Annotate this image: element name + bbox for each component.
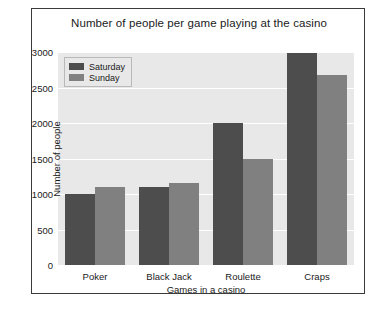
- bar: [65, 194, 95, 265]
- y-axis-tick-label: 500: [37, 224, 53, 235]
- x-axis-tick-label: Craps: [304, 271, 329, 282]
- x-axis-tick-label: Poker: [83, 271, 108, 282]
- y-axis-tick-label: 2500: [32, 82, 53, 93]
- y-axis-tick-label: 3000: [32, 47, 53, 58]
- legend-item: Sunday: [69, 72, 125, 83]
- bar: [213, 123, 243, 265]
- legend-swatch: [69, 74, 84, 81]
- x-axis-tick-label: Black Jack: [146, 271, 191, 282]
- x-axis-label: Games in a casino: [58, 284, 354, 295]
- gridline: [58, 265, 354, 266]
- legend-label: Saturday: [89, 62, 125, 72]
- bar: [317, 75, 347, 265]
- y-axis-tick-label: 0: [48, 260, 53, 271]
- bar: [243, 159, 273, 266]
- bar: [95, 187, 125, 265]
- bar: [169, 183, 199, 265]
- chart-figure: Number of people per game playing at the…: [31, 8, 365, 294]
- y-axis-label: Number of people: [51, 99, 62, 219]
- chart-title: Number of people per game playing at the…: [32, 17, 366, 29]
- chart-legend: SaturdaySunday: [64, 57, 132, 87]
- legend-swatch: [69, 63, 84, 70]
- legend-label: Sunday: [89, 73, 120, 83]
- legend-item: Saturday: [69, 61, 125, 72]
- plot-area: 050010001500200025003000 Number of peopl…: [58, 52, 354, 265]
- bar: [287, 53, 317, 265]
- x-axis-tick-label: Roulette: [225, 271, 260, 282]
- bar: [139, 187, 169, 265]
